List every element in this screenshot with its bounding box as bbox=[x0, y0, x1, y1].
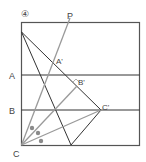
label-A-prime: A' bbox=[56, 57, 63, 66]
angle-mark-2 bbox=[36, 131, 40, 135]
label-A: A bbox=[9, 71, 15, 81]
fold-line-steep bbox=[22, 32, 72, 145]
label-P: P bbox=[67, 11, 73, 21]
angle-mark-1 bbox=[30, 126, 34, 130]
label-B-prime: B' bbox=[78, 78, 85, 87]
fold-line-c-prime-bottom bbox=[71, 110, 101, 145]
step-label: ④ bbox=[21, 9, 29, 19]
label-C-prime: C' bbox=[102, 103, 110, 112]
label-C: C bbox=[13, 149, 20, 159]
label-B: B bbox=[9, 106, 15, 116]
origami-geometry-diagram: ④ P A B C A' B' C' bbox=[0, 0, 146, 162]
angle-mark-3 bbox=[39, 139, 43, 143]
fold-line-diagonal bbox=[22, 32, 102, 110]
